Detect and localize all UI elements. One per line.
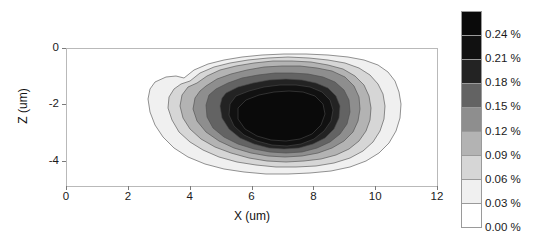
colorbar-tick-label: 0.15 % xyxy=(485,102,521,114)
axis-spine-right xyxy=(437,48,438,187)
axis-spine-top xyxy=(66,48,438,49)
colorbar-gradient-bar xyxy=(461,11,482,228)
x-tick-label: 0 xyxy=(63,191,69,203)
colorbar-tick-label: 0.06 % xyxy=(485,174,521,186)
y-tick-label: -2 xyxy=(49,99,59,111)
colorbar: 0.24 %0.21 %0.18 %0.15 %0.12 %0.09 %0.06… xyxy=(461,11,539,229)
y-tick-mark xyxy=(62,48,66,49)
y-tick-label: -4 xyxy=(49,155,59,167)
x-tick-label: 10 xyxy=(369,191,382,203)
contour-plot-figure: 024681012 0-2-4 X (um) Z (um) 0.24 %0.21… xyxy=(0,0,543,247)
colorbar-tick-label: 0.09 % xyxy=(485,150,521,162)
colorbar-band xyxy=(462,179,481,203)
colorbar-tick-label: 0.03 % xyxy=(485,198,521,210)
y-axis-title: Z (um) xyxy=(17,61,29,151)
colorbar-band xyxy=(462,83,481,107)
x-tick-label: 4 xyxy=(186,191,192,203)
y-tick-mark xyxy=(62,161,66,162)
colorbar-tick-labels: 0.24 %0.21 %0.18 %0.15 %0.12 %0.09 %0.06… xyxy=(485,11,539,228)
x-tick-label: 8 xyxy=(310,191,316,203)
colorbar-tick-label: 0.18 % xyxy=(485,78,521,90)
colorbar-band xyxy=(462,203,481,227)
plot-area xyxy=(66,48,437,186)
contour-canvas xyxy=(66,48,437,186)
colorbar-tick-label: 0.21 % xyxy=(485,53,521,65)
colorbar-band xyxy=(462,107,481,131)
colorbar-tick-label: 0.24 % xyxy=(485,29,521,41)
axis-spine-left xyxy=(66,48,67,187)
colorbar-tick-label: 0.00 % xyxy=(485,222,521,234)
y-tick-label: 0 xyxy=(53,42,59,54)
colorbar-band xyxy=(462,35,481,59)
colorbar-band xyxy=(462,131,481,155)
colorbar-tick-label: 0.12 % xyxy=(485,126,521,138)
x-tick-label: 12 xyxy=(431,191,444,203)
x-axis-title: X (um) xyxy=(66,210,438,222)
x-tick-label: 2 xyxy=(125,191,131,203)
colorbar-band xyxy=(462,59,481,83)
y-tick-mark xyxy=(62,104,66,105)
colorbar-band xyxy=(462,12,481,35)
colorbar-band xyxy=(462,155,481,179)
x-tick-label: 6 xyxy=(248,191,254,203)
